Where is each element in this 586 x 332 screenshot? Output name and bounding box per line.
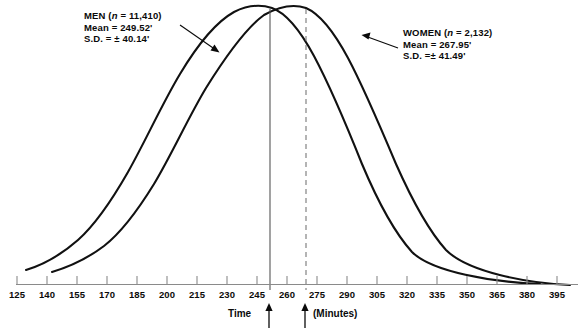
- women-annotation-mean-line: Mean = 267.95': [403, 39, 492, 51]
- x-tick-label: 335: [429, 289, 445, 300]
- x-tick-label: 260: [279, 289, 295, 300]
- x-tick-label: 185: [129, 289, 145, 300]
- women-label-leader-arrow-icon: [362, 33, 399, 49]
- x-tick-label: 170: [99, 289, 115, 300]
- women-annotation-sd-line: S.D. =± 41.49': [403, 50, 492, 62]
- x-tick-label: 395: [549, 289, 565, 300]
- x-tick-label: 320: [399, 289, 415, 300]
- x-tick-label: 365: [489, 289, 505, 300]
- chart-plot-area: [0, 0, 586, 332]
- x-tick-label: 155: [69, 289, 85, 300]
- women-mean-arrow-icon: [301, 303, 308, 328]
- x-axis-title-units: (Minutes): [313, 308, 357, 319]
- men-annotation-mean-line: Mean = 249.52': [84, 22, 162, 34]
- x-tick-label: 380: [519, 289, 535, 300]
- x-tick-label: 200: [159, 289, 175, 300]
- x-tick-label: 125: [9, 289, 25, 300]
- x-tick-label: 245: [249, 289, 265, 300]
- men-mean-arrow-icon: [265, 303, 272, 328]
- x-tick-label: 290: [339, 289, 355, 300]
- women-series-annotation: WOMEN (n = 2,132) Mean = 267.95' S.D. =±…: [403, 27, 492, 62]
- x-tick-label: 140: [39, 289, 55, 300]
- marathon-finish-time-distribution-chart: MEN (n = 11,410) Mean = 249.52' S.D. = ±…: [0, 0, 586, 332]
- x-axis-title-time: Time: [228, 308, 251, 319]
- women-annotation-title-line: WOMEN (n = 2,132): [403, 27, 492, 39]
- x-tick-label: 275: [309, 289, 325, 300]
- men-annotation-sd-line: S.D. = ± 40.14': [84, 33, 162, 45]
- men-annotation-title-line: MEN (n = 11,410): [84, 10, 162, 22]
- x-tick-label: 350: [459, 289, 475, 300]
- x-tick-label: 230: [219, 289, 235, 300]
- x-tick-label: 305: [369, 289, 385, 300]
- x-tick-label: 215: [189, 289, 205, 300]
- men-series-annotation: MEN (n = 11,410) Mean = 249.52' S.D. = ±…: [84, 10, 162, 45]
